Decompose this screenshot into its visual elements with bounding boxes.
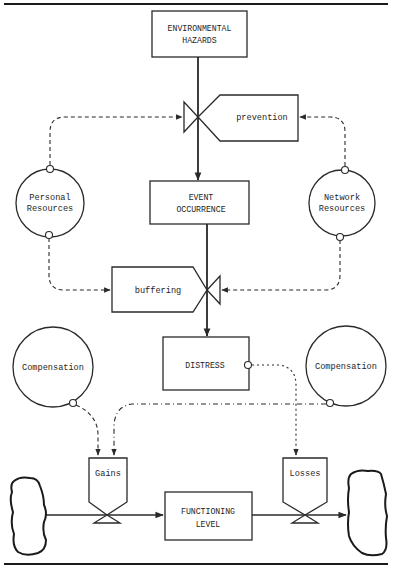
environmental-hazards-label-line1: ENVIRONMENTAL	[168, 24, 232, 33]
network-resources-label-line1: Network	[324, 193, 360, 203]
gains-valve-icon	[94, 515, 120, 523]
network-resources-bottom-port	[337, 234, 344, 241]
prevention-node: prevention	[198, 95, 298, 141]
compensation-left-port	[70, 400, 77, 407]
stress-process-diagram: ENVIRONMENTAL HAZARDS prevention Persona…	[0, 0, 394, 568]
environmental-hazards-node: ENVIRONMENTAL HAZARDS	[152, 11, 247, 57]
prevention-label: prevention	[236, 113, 288, 123]
personal-resources-label-line2: Resources	[27, 204, 73, 214]
personal-resources-top-port	[47, 166, 54, 173]
losses-valve-icon	[292, 515, 318, 523]
network-to-buffering-link	[222, 240, 340, 290]
compensation-right-node: Compensation	[306, 326, 386, 406]
personal-resources-label-line1: Personal	[29, 193, 70, 203]
network-resources-node: Network Resources	[309, 170, 375, 236]
distress-port	[245, 362, 252, 369]
environmental-hazards-label-line2: HAZARDS	[182, 36, 216, 45]
gains-label: Gains	[95, 469, 121, 479]
gains-node: Gains	[89, 458, 127, 523]
functioning-level-node: FUNCTIONING LEVEL	[165, 492, 252, 540]
personal-to-prevention-link	[50, 117, 182, 165]
losses-label: Losses	[290, 469, 321, 479]
event-occurrence-label-line1: EVENT	[189, 193, 214, 202]
compensation-right-port	[327, 400, 334, 407]
functioning-level-label-line1: FUNCTIONING	[181, 507, 235, 516]
prevention-valve-icon	[184, 102, 198, 132]
distress-label: DISTRESS	[185, 361, 224, 370]
personal-resources-bottom-port	[46, 232, 53, 239]
compensation-right-to-gains-link	[114, 404, 326, 455]
buffering-valve	[207, 276, 220, 304]
network-resources-top-port	[342, 167, 349, 174]
personal-resources-node: Personal Resources	[16, 169, 84, 237]
buffering-label: buffering	[135, 286, 181, 296]
buffering-node: buffering	[112, 267, 207, 312]
compensation-right-label: Compensation	[315, 362, 377, 372]
event-occurrence-label-line2: OCCURRENCE	[176, 205, 225, 214]
compensation-left-label: Compensation	[22, 363, 84, 373]
distress-to-losses-link	[252, 365, 296, 455]
functioning-level-label-line2: LEVEL	[196, 520, 221, 529]
buffering-valve-icon	[207, 276, 220, 304]
source-cloud-icon	[11, 477, 46, 554]
distress-node: DISTRESS	[163, 337, 249, 390]
sink-cloud-icon	[348, 470, 387, 555]
compensation-left-node: Compensation	[13, 327, 93, 407]
personal-to-buffering-link	[49, 238, 110, 290]
compensation-left-to-gains-link	[76, 405, 98, 455]
losses-node: Losses	[283, 458, 327, 523]
network-resources-label-line2: Resources	[319, 204, 365, 214]
prevention-valve	[184, 102, 198, 132]
event-occurrence-node: EVENT OCCURRENCE	[150, 181, 249, 224]
network-to-prevention-link	[300, 117, 345, 166]
